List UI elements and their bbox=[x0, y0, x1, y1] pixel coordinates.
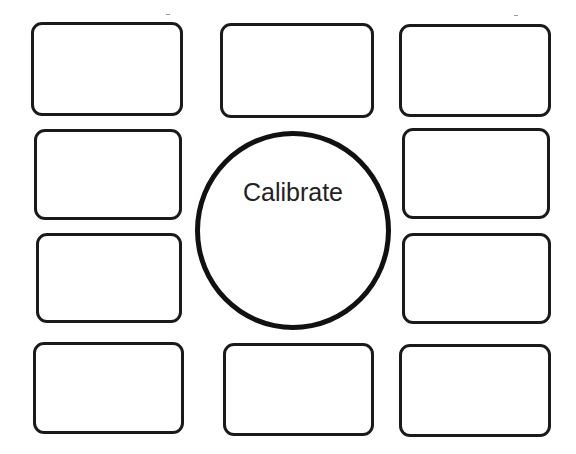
box-top-left bbox=[31, 22, 183, 116]
center-circle: Calibrate bbox=[195, 131, 391, 330]
box-top-middle bbox=[220, 23, 374, 118]
scan-speck bbox=[166, 14, 170, 15]
box-bottom-right bbox=[399, 344, 551, 437]
scan-speck bbox=[514, 15, 518, 16]
box-middle-right-upper bbox=[402, 128, 550, 219]
box-bottom-left bbox=[33, 342, 184, 434]
box-top-right bbox=[399, 24, 551, 117]
box-middle-right-lower bbox=[402, 233, 551, 324]
box-middle-left-upper bbox=[34, 129, 182, 220]
box-bottom-middle bbox=[223, 343, 374, 436]
box-middle-left-lower bbox=[36, 233, 182, 323]
center-label: Calibrate bbox=[200, 178, 386, 207]
